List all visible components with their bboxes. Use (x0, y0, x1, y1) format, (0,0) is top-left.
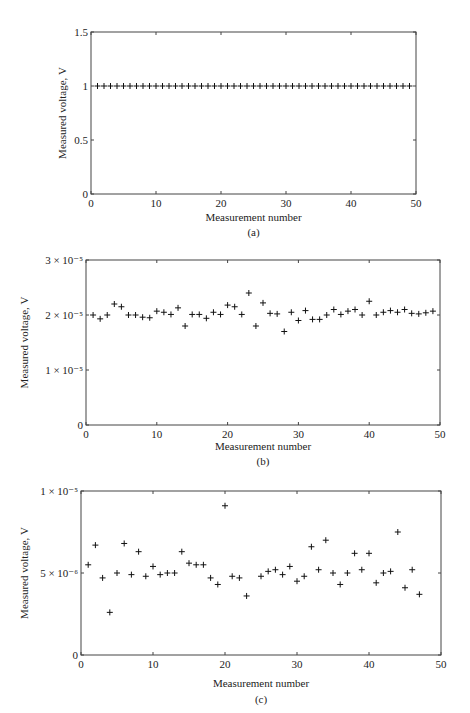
data-point-marker (373, 580, 379, 586)
y-tick-label: 0 (78, 419, 84, 431)
data-point-marker (95, 83, 101, 89)
x-tick-label: 20 (216, 197, 228, 209)
y-axis-label: Measured voltage, V (18, 297, 30, 389)
data-point-marker (205, 83, 211, 89)
x-tick-label: 10 (151, 428, 163, 440)
data-point-marker (281, 329, 287, 335)
data-point-marker (329, 83, 335, 89)
data-point-marker (264, 83, 270, 89)
data-point-marker (388, 568, 394, 574)
chart-c: 0102030405005 × 10⁻⁶1 × 10⁻⁵Measurement … (18, 485, 447, 706)
data-point-marker (309, 83, 315, 89)
data-point-marker (338, 311, 344, 317)
data-point-marker (323, 537, 329, 543)
data-point-marker (238, 83, 244, 89)
data-point-marker (287, 563, 293, 569)
data-point-marker (387, 308, 393, 314)
data-point-marker (222, 503, 228, 509)
data-point-marker (179, 549, 185, 555)
data-point-marker (140, 314, 146, 320)
data-point-marker (121, 540, 127, 546)
data-point-marker (208, 575, 214, 581)
y-tick-label: 1 (83, 80, 89, 92)
data-point-marker (92, 542, 98, 548)
data-point-marker (387, 83, 393, 89)
data-point-marker (316, 567, 322, 573)
data-point-marker (402, 307, 408, 313)
data-point-marker (368, 83, 374, 89)
x-axis-label: Measurement number (213, 677, 310, 689)
data-point-marker (154, 308, 160, 314)
data-point-marker (348, 83, 354, 89)
data-point-marker (134, 83, 140, 89)
data-point-marker (423, 310, 429, 316)
x-tick-label: 40 (346, 197, 358, 209)
data-point-marker (265, 568, 271, 574)
data-point-marker (295, 318, 301, 324)
plot-frame (86, 260, 440, 425)
data-point-marker (308, 544, 314, 550)
data-point-marker (430, 308, 436, 314)
data-point-marker (335, 83, 341, 89)
data-point-marker (125, 312, 131, 318)
plot-frame (81, 491, 441, 655)
x-tick-label: 30 (292, 658, 304, 670)
y-tick-label: 1.5 (74, 26, 88, 38)
data-point-marker (203, 315, 209, 321)
data-point-marker (160, 83, 166, 89)
data-point-marker (322, 83, 328, 89)
data-point-marker (381, 83, 387, 89)
data-point-marker (199, 83, 205, 89)
data-point-marker (316, 83, 322, 89)
data-point-marker (192, 83, 198, 89)
data-point-marker (186, 560, 192, 566)
data-point-marker (359, 567, 365, 573)
data-point-marker (104, 312, 110, 318)
data-point-marker (215, 581, 221, 587)
data-point-marker (218, 311, 224, 317)
data-point-marker (416, 311, 422, 317)
data-point-marker (173, 83, 179, 89)
data-point-marker (225, 83, 231, 89)
x-tick-label: 20 (222, 428, 234, 440)
data-point-marker (257, 83, 263, 89)
chart-a: 0102030405000.511.5Measurement numberMea… (0, 0, 470, 713)
chart-a: 0102030405000.511.5Measurement numberMea… (56, 26, 422, 239)
data-point-marker (200, 562, 206, 568)
data-point-marker (337, 581, 343, 587)
x-tick-label: 40 (364, 658, 376, 670)
data-point-marker (330, 570, 336, 576)
data-point-marker (225, 302, 231, 308)
chart-caption: (c) (255, 693, 268, 706)
data-point-marker (114, 570, 120, 576)
data-point-marker (270, 83, 276, 89)
data-point-marker (294, 578, 300, 584)
y-tick-label: 0 (73, 649, 79, 661)
data-point-marker (359, 312, 365, 318)
charts-canvas: 0102030405000.511.5Measurement numberMea… (0, 0, 470, 713)
x-tick-label: 20 (220, 658, 232, 670)
data-point-marker (189, 311, 195, 317)
data-point-marker (366, 550, 372, 556)
data-point-marker (114, 83, 120, 89)
data-point-marker (344, 570, 350, 576)
y-tick-label: 1 × 10⁻⁵ (40, 485, 78, 497)
data-point-marker (290, 83, 296, 89)
data-point-marker (355, 83, 361, 89)
x-axis-label: Measurement number (215, 440, 312, 452)
data-point-marker (90, 312, 96, 318)
data-point-marker (100, 575, 106, 581)
data-point-marker (210, 309, 216, 315)
x-tick-label: 50 (436, 658, 448, 670)
data-point-marker (301, 573, 307, 579)
x-tick-label: 40 (364, 428, 376, 440)
chart-caption: (b) (257, 455, 270, 468)
data-point-marker (172, 570, 178, 576)
data-point-marker (121, 83, 127, 89)
data-point-marker (232, 304, 238, 310)
y-tick-label: 0 (83, 188, 89, 200)
data-point-marker (283, 83, 289, 89)
data-point-marker (352, 307, 358, 313)
y-tick-label: 2 × 10⁻⁵ (45, 309, 83, 321)
data-point-marker (258, 573, 264, 579)
